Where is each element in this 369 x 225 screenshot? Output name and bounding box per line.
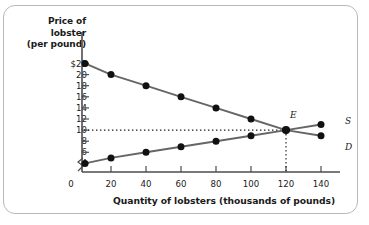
demand-point bbox=[248, 116, 255, 123]
supply-point bbox=[178, 143, 185, 150]
axes bbox=[78, 32, 340, 172]
demand-point bbox=[143, 82, 150, 89]
y-axis-ticks bbox=[82, 64, 89, 164]
supply-point bbox=[143, 149, 150, 156]
equilibrium-guides bbox=[84, 130, 286, 171]
demand-point bbox=[178, 93, 185, 100]
demand-point bbox=[213, 104, 220, 111]
supply-point bbox=[318, 121, 325, 128]
equilibrium-point bbox=[282, 126, 290, 134]
supply-point bbox=[248, 132, 255, 139]
demand-line bbox=[85, 63, 321, 135]
chart-canvas bbox=[0, 0, 369, 225]
demand-point bbox=[82, 60, 89, 67]
supply-point bbox=[213, 138, 220, 145]
x-axis-ticks bbox=[111, 166, 321, 172]
supply-point bbox=[108, 154, 115, 161]
demand-point bbox=[318, 132, 325, 139]
supply-point bbox=[82, 160, 89, 167]
demand-point bbox=[108, 71, 115, 78]
